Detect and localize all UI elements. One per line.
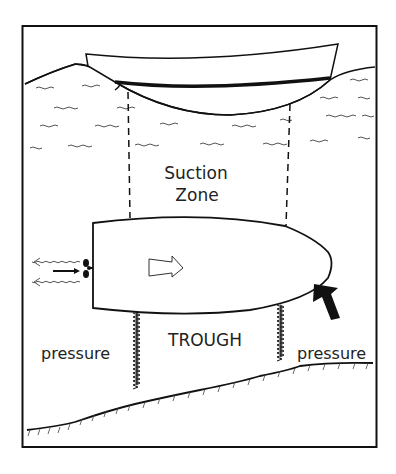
diagram-canvas: Suction Zone TROUGH pressure pressure [0,0,396,474]
propeller-icon [83,259,93,278]
pressure-right-label: pressure [297,344,366,363]
zone-label: Zone [175,185,218,205]
pressure-left-label: pressure [41,344,110,363]
submerged-hull [93,217,332,313]
sloping-bottom [27,363,373,436]
suction-label: Suction [164,163,227,183]
surface-boat [86,44,338,115]
trough-label: TROUGH [167,330,242,350]
thrust-arrow-icon [313,284,340,320]
shaft-arrow [53,268,80,274]
